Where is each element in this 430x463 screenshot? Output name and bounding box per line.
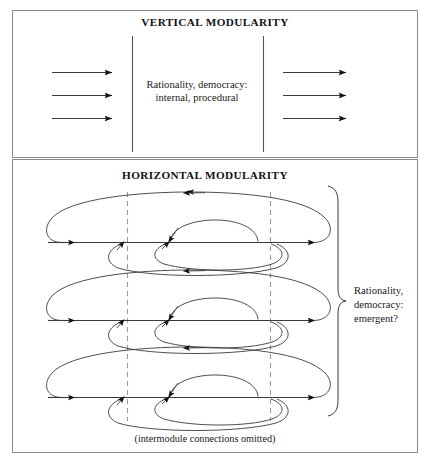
horizontal-module-2 (47, 270, 331, 354)
module-2-outer-loop-right (190, 270, 330, 321)
bottom-side-label-line2: democracy: (354, 299, 403, 310)
horizontal-module-3 (47, 347, 331, 431)
modularity-diagram: VERTICAL MODULARITY Rationality, democra… (0, 0, 430, 463)
top-center-label-line2: internal, procedural (156, 92, 239, 103)
module-3-inner-loop (155, 399, 282, 425)
module-1-outer-loop-right (190, 192, 330, 243)
top-right-arrow-group (283, 73, 346, 119)
right-curly-brace (328, 186, 346, 416)
bottom-panel-title: HORIZONTAL MODULARITY (122, 169, 288, 181)
module-1-outer-loop-top (47, 192, 190, 243)
module-1-top-small-loop-arrow (170, 228, 178, 240)
top-left-arrow-group (52, 73, 112, 119)
module-2-top-small-loop-arrow (170, 306, 178, 318)
bottom-side-label-line3: emergent? (354, 313, 398, 324)
figure-container: VERTICAL MODULARITY Rationality, democra… (0, 0, 430, 463)
top-center-label-line1: Rationality, democracy: (146, 79, 247, 90)
module-3-top-small-loop (170, 375, 258, 397)
module-3-outer-loop-right (190, 347, 330, 398)
module-1-inner-loop (155, 244, 282, 270)
bottom-side-label-line1: Rationality, (354, 285, 403, 296)
module-2-outer-loop-top (47, 270, 190, 321)
module-2-inner-loop (155, 322, 282, 348)
module-3-top-small-loop-arrow (170, 383, 178, 395)
horizontal-module-1 (47, 192, 331, 276)
module-3-outer-loop-top (47, 347, 190, 398)
module-1-top-small-loop (170, 220, 258, 242)
module-2-top-small-loop (170, 298, 258, 320)
bottom-caption: (intermodule connections omitted) (135, 433, 276, 445)
module-3-mid-loop (109, 399, 289, 431)
top-panel-title: VERTICAL MODULARITY (141, 16, 288, 28)
module-2-mid-loop (109, 322, 289, 354)
